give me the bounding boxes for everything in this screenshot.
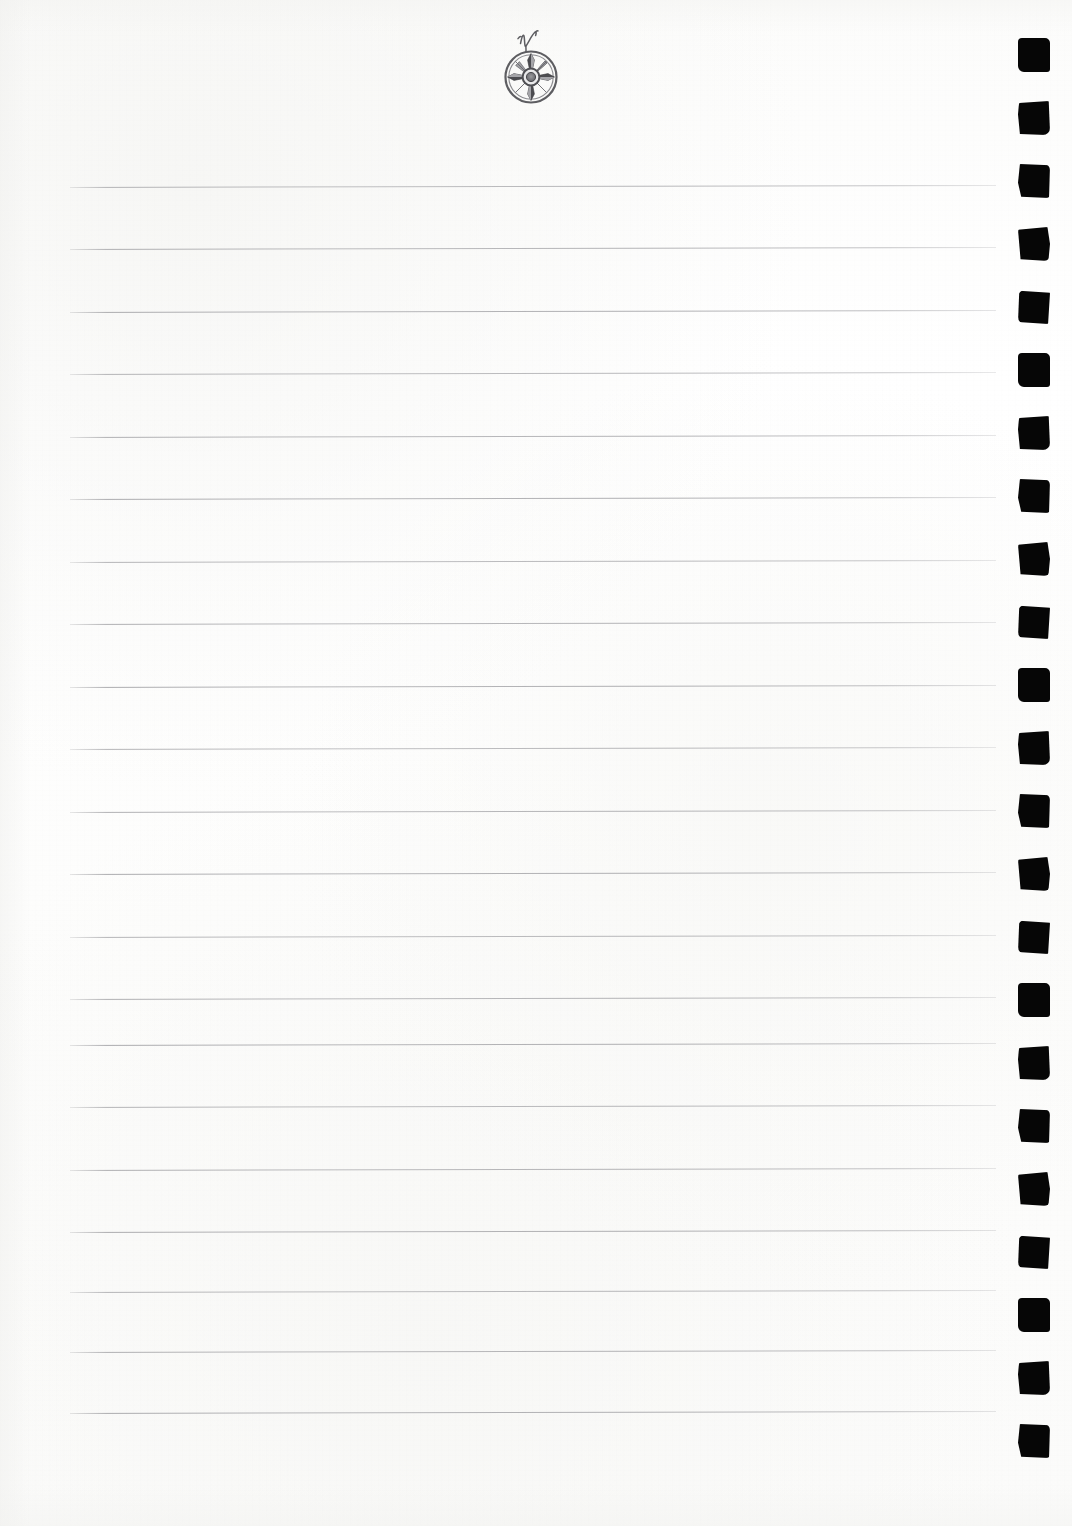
ruled-line (70, 622, 996, 625)
compass-rose-icon (494, 22, 570, 112)
ruled-line (70, 685, 996, 688)
binding-hole (1018, 731, 1050, 765)
ruled-line (70, 997, 996, 1000)
binding-hole (1018, 542, 1050, 576)
binding-hole (1018, 101, 1050, 135)
binding-hole (1018, 290, 1050, 324)
ruled-line (70, 1290, 996, 1293)
ruled-line (70, 810, 996, 813)
binding-hole (1018, 1235, 1050, 1269)
binding-hole (1018, 1109, 1050, 1143)
ruled-line (70, 872, 996, 875)
ruled-line (70, 1168, 996, 1171)
binding-hole (1018, 227, 1050, 261)
compass-letter-n (518, 31, 538, 52)
binding-hole (1018, 1172, 1050, 1206)
ruled-line (70, 1411, 996, 1414)
binding-hole (1018, 794, 1050, 828)
ruled-line (70, 185, 996, 188)
binding-hole (1018, 983, 1050, 1017)
paper-texture (0, 0, 1072, 1526)
binding-hole (1018, 353, 1050, 387)
ruled-line (70, 1105, 996, 1108)
ruled-line (70, 247, 996, 250)
binding-hole (1018, 416, 1050, 450)
ruled-line (70, 372, 996, 375)
binding-hole (1018, 38, 1050, 72)
binding-hole (1018, 857, 1050, 891)
ruled-line (70, 747, 996, 750)
ruled-line (70, 497, 996, 500)
binding-hole (1018, 1424, 1050, 1458)
ruled-line (70, 1350, 996, 1353)
ruled-line (70, 310, 996, 313)
ruled-line (70, 1043, 996, 1046)
binding-hole (1018, 1298, 1050, 1332)
binding-hole (1018, 605, 1050, 639)
binding-hole (1018, 1046, 1050, 1080)
ruled-line (70, 1230, 996, 1233)
ruled-line (70, 435, 996, 438)
ruled-lines (0, 0, 1072, 1526)
notebook-page (0, 0, 1072, 1526)
ruled-line (70, 935, 996, 938)
page-edge-shading (0, 0, 1072, 1526)
spiral-binding-holes (1008, 0, 1072, 1526)
binding-hole (1018, 164, 1050, 198)
binding-hole (1018, 479, 1050, 513)
binding-hole (1018, 1361, 1050, 1395)
binding-hole (1018, 668, 1050, 702)
binding-hole (1018, 920, 1050, 954)
compass-hub-center (526, 72, 535, 81)
ruled-line (70, 560, 996, 563)
